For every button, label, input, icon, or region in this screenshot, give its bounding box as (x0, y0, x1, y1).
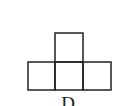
top-square (55, 33, 83, 62)
option-label: D (58, 94, 78, 106)
t-shape-figure (0, 0, 131, 106)
bottom-middle-square (55, 62, 83, 90)
bottom-right-square (83, 62, 111, 90)
bottom-left-square (28, 62, 55, 90)
